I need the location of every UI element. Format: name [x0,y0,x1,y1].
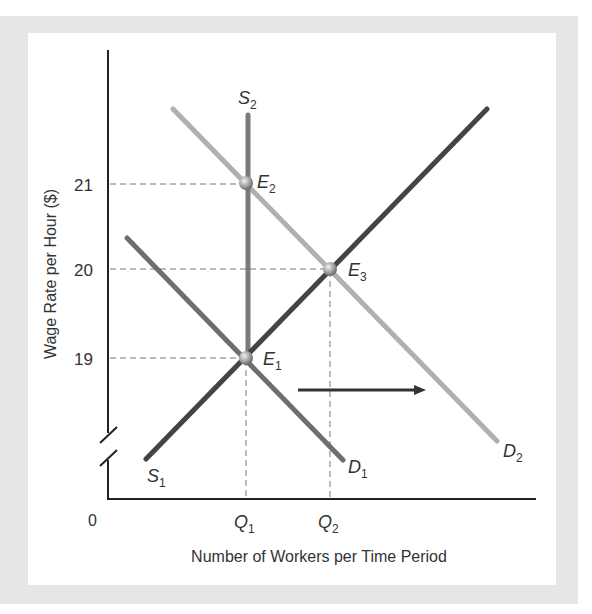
x-tick-q1: Q1 [234,512,255,536]
equilibrium-point-e3 [323,262,337,276]
equilibrium-point-e1 [239,351,253,365]
curve-label-d1: D1 [348,457,368,481]
point-label-e2: E2 [257,172,276,196]
labor-market-diagram: 21 20 19 Wage Rate per Hour ($) 0 Q1 Q2 … [0,0,592,614]
point-label-e3: E3 [348,260,367,284]
x-tick-q2: Q2 [318,512,339,536]
y-axis-label: Wage Rate per Hour ($) [42,189,59,359]
x-axis-label: Number of Workers per Time Period [191,548,447,565]
curve-label-s2: S2 [238,88,257,112]
demand-curve-d1 [127,238,343,460]
supply-curve-s1 [146,109,487,459]
y-tick-21: 21 [74,176,93,195]
equilibrium-point-e2 [239,176,253,190]
origin-label: 0 [88,512,97,529]
curve-label-d2: D2 [503,441,523,465]
demand-shift-arrow [298,385,426,395]
curve-label-s1: S1 [147,466,166,490]
y-tick-20: 20 [74,261,93,280]
guide-lines [110,184,330,498]
y-tick-19: 19 [74,350,93,369]
point-label-e1: E1 [263,349,282,373]
